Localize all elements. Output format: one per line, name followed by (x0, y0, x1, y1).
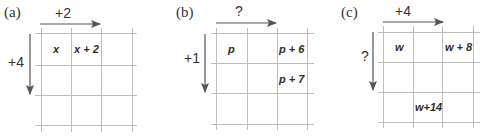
grid-cell-p-plus-7: p + 7 (279, 73, 304, 85)
horizontal-step-label: ? (235, 3, 243, 19)
panel-label: (a) (4, 4, 21, 21)
grid-cell-p: p (228, 43, 235, 55)
grid-cell-p-plus-6: p + 6 (279, 43, 304, 55)
horizontal-step-label: +2 (55, 5, 71, 21)
panel-label: (b) (176, 4, 194, 21)
panel-label: (c) (341, 4, 358, 21)
vertical-step-label: +4 (8, 54, 24, 70)
panel-a: (a) +2 +4 x x + 2 (0, 0, 160, 138)
panel-b: (b) ? +1 p p + 6 p + 7 (160, 0, 325, 138)
horizontal-step-label: +4 (395, 3, 411, 19)
grid-cell-w-plus-8: w + 8 (445, 41, 472, 53)
grid-cell-w-plus-14: w+14 (415, 101, 442, 113)
grid-cell-w: w (395, 41, 404, 53)
grid-cell-x-plus-2: x + 2 (74, 43, 99, 55)
vertical-step-label: ? (361, 48, 369, 64)
vertical-step-label: +1 (184, 50, 200, 66)
panel-c: (c) +4 ? w w + 8 w+14 (325, 0, 485, 138)
grid-cell-x: x (53, 43, 59, 55)
